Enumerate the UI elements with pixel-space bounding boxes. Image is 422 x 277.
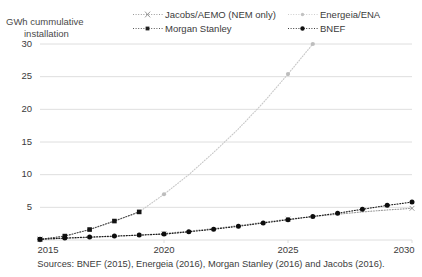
y-axis-tick-label: 5 — [6, 201, 32, 212]
data-point — [286, 72, 290, 76]
data-point — [360, 207, 365, 212]
data-point — [385, 203, 390, 208]
data-point — [286, 217, 291, 222]
data-point — [112, 219, 117, 224]
data-point — [137, 233, 142, 238]
data-point — [311, 42, 315, 46]
source-note: Sources: BNEF (2015), Energeia (2016), M… — [0, 259, 422, 269]
data-point — [335, 211, 340, 216]
data-point — [186, 229, 191, 234]
data-point — [236, 224, 241, 229]
y-axis-tick-label: 30 — [6, 38, 32, 49]
x-axis-tick-label: 2015 — [28, 244, 68, 255]
data-point — [62, 236, 67, 241]
x-axis-tick-label: 2025 — [268, 244, 308, 255]
y-axis-tick-label: 20 — [6, 103, 32, 114]
data-point — [310, 214, 315, 219]
chart-container: GWh cummulative installation Jacobs/AEMO… — [0, 0, 422, 277]
data-point — [162, 232, 167, 237]
data-point — [410, 206, 415, 211]
data-point — [87, 227, 92, 232]
data-point — [261, 221, 266, 226]
plot-area — [0, 0, 422, 277]
y-axis-tick-label: 15 — [6, 136, 32, 147]
y-axis-tick-label: 25 — [6, 70, 32, 81]
x-axis-tick-label: 2030 — [384, 244, 422, 255]
data-point — [137, 210, 142, 215]
data-point — [211, 227, 216, 232]
data-point — [410, 200, 415, 205]
series-jacobs-aemo-nem-only — [38, 206, 415, 242]
series-bnef — [38, 200, 415, 242]
data-point — [87, 235, 92, 240]
data-point — [112, 234, 117, 239]
data-point — [38, 237, 43, 242]
y-axis-tick-label: 10 — [6, 168, 32, 179]
data-point — [162, 192, 166, 196]
series-line — [40, 208, 412, 239]
x-axis-tick-label: 2020 — [144, 244, 184, 255]
